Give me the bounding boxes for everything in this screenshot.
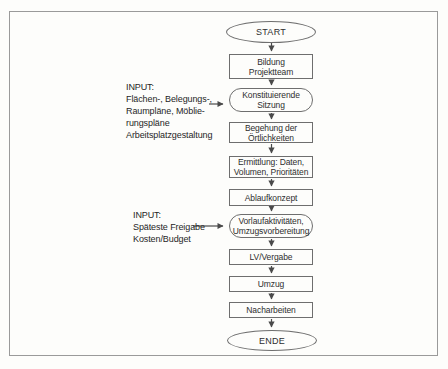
flow-node-ende: ENDE (227, 330, 317, 351)
input-annotation-2: INPUT: Späteste Freigabe Kosten/Budget (133, 209, 223, 245)
flow-node-nacharbeiten: Nacharbeiten (229, 302, 313, 318)
flow-node-ermittlung: Ermittlung: Daten, Volumen, Prioritäten (229, 156, 313, 178)
flow-node-umzug: Umzug (229, 276, 313, 292)
flow-node-bildung-projektteam: Bildung Projektteam (229, 54, 313, 79)
flow-node-vorlaufaktivitaeten: Vorlaufaktivitäten, Umzugsvorbereitung (229, 214, 313, 238)
flow-node-start: START (226, 21, 316, 43)
flow-node-konstituierende-sitzung: Konstituierende Sitzung (229, 88, 313, 112)
flow-node-begehung-oertlichkeiten: Begehung der Örtlichkeiten (229, 122, 313, 143)
flow-arrows (0, 0, 448, 369)
flow-node-ablaufkonzept: Ablaufkonzept (229, 189, 313, 206)
flow-node-lv-vergabe: LV/Vergabe (229, 249, 313, 265)
flowchart-page: START Bildung Projektteam Konstituierend… (0, 0, 448, 369)
input-annotation-1: INPUT: Flächen-, Belegungs-, Raumpläne, … (126, 81, 221, 141)
